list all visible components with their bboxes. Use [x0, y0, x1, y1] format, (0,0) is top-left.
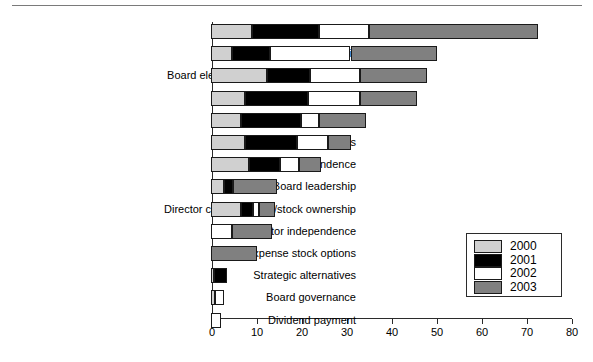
bar-segment-2001	[249, 157, 280, 172]
x-tick-label: 80	[566, 326, 578, 338]
bar-segment-2001	[252, 24, 320, 39]
x-tick-label: 60	[476, 326, 488, 338]
bar-segment-2001	[245, 135, 297, 150]
bar-segment-2002	[270, 46, 351, 61]
category-label: Board governance	[266, 290, 356, 305]
bar-segment-2003	[360, 68, 428, 83]
bar-row: Board leadership	[212, 179, 572, 194]
bar-row: Director/board independence	[212, 157, 572, 172]
bar-segment-2003	[259, 202, 275, 217]
legend-label-2001: 2001	[510, 253, 537, 267]
chart-figure: 01020304050607080 Executive compensation…	[0, 0, 593, 362]
bar-segment-2003	[233, 179, 277, 194]
legend-swatch-2001	[474, 254, 502, 267]
category-label: Dividend payment	[268, 313, 356, 328]
bar-row: Shareholders' rights	[212, 135, 572, 150]
bar-segment-2003	[232, 224, 272, 239]
bar-segment-2002	[215, 290, 225, 305]
bar-segment-2000	[211, 68, 267, 83]
x-tick-label: 70	[521, 326, 533, 338]
bar-segment-2000	[211, 157, 249, 172]
x-tick-label: 10	[251, 326, 263, 338]
bar-segment-2002	[301, 113, 319, 128]
bar-segment-2002	[211, 313, 221, 328]
bar-segment-2002	[310, 68, 360, 83]
bar-segment-2001	[245, 91, 308, 106]
bar-segment-2000	[211, 202, 241, 217]
legend-swatch-2002	[474, 267, 502, 280]
bar-row: Director compensation/stock ownership	[212, 202, 572, 217]
bar-segment-2000	[211, 91, 245, 106]
bar-row: Executive compensation	[212, 24, 572, 39]
legend-swatch-2003	[474, 281, 502, 294]
bar-segment-2003	[299, 157, 322, 172]
bar-row: Director nomination	[212, 113, 572, 128]
x-tick-label: 40	[386, 326, 398, 338]
bar-segment-2000	[211, 46, 232, 61]
bar-segment-2002	[319, 24, 369, 39]
bar-row: Dividend payment	[212, 313, 572, 328]
bar-row: Poison pill	[212, 46, 572, 61]
bar-segment-2001	[224, 179, 233, 194]
category-label: Strategic alternatives	[253, 268, 356, 283]
bar-segment-2003	[351, 46, 438, 61]
bar-segment-2000	[211, 179, 224, 194]
chart-legend: 2000200120022003	[466, 233, 562, 297]
category-label: Board leadership	[273, 179, 356, 194]
x-tick-mark	[572, 319, 573, 324]
bar-segment-2000	[211, 24, 252, 39]
bar-row: Voting	[212, 91, 572, 106]
bar-segment-2003	[328, 135, 351, 150]
x-tick-label: 30	[341, 326, 353, 338]
bar-row: Board elections: terms limits/declassify	[212, 68, 572, 83]
legend-label-2003: 2003	[510, 280, 537, 294]
bar-segment-2003	[319, 113, 366, 128]
bar-segment-2001	[267, 68, 310, 83]
bar-segment-2003	[211, 246, 257, 261]
x-tick-label: 50	[431, 326, 443, 338]
bar-segment-2001	[214, 268, 227, 283]
bar-segment-2002	[211, 224, 232, 239]
bar-segment-2003	[360, 91, 417, 106]
bar-segment-2001	[241, 113, 301, 128]
bar-segment-2002	[280, 157, 299, 172]
category-label: Expense stock options	[246, 246, 356, 261]
bar-segment-2001	[241, 202, 253, 217]
header-rule	[12, 5, 582, 6]
bar-segment-2001	[232, 46, 270, 61]
legend-label-2000: 2000	[510, 239, 537, 253]
x-tick-label: 20	[296, 326, 308, 338]
bar-segment-2002	[297, 135, 329, 150]
bar-segment-2000	[211, 113, 241, 128]
bar-segment-2000	[211, 135, 245, 150]
legend-label-2002: 2002	[510, 266, 537, 280]
bar-segment-2002	[308, 91, 360, 106]
bar-segment-2003	[369, 24, 538, 39]
x-tick-label: 0	[209, 326, 215, 338]
legend-swatch-2000	[474, 240, 502, 253]
